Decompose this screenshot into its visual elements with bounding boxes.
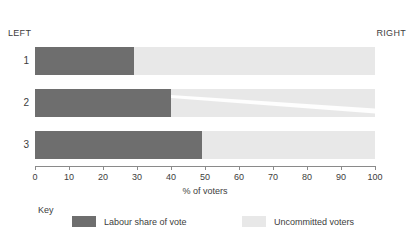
bar-row-label: 3	[23, 140, 29, 150]
x-axis-tick-label: 50	[200, 172, 210, 182]
bar-row: 1	[35, 47, 375, 75]
legend-title: Key	[38, 205, 54, 215]
bar-row: 3	[35, 131, 375, 159]
x-axis-tick	[137, 166, 138, 170]
highlight-wedge	[171, 89, 375, 117]
x-axis-tick	[35, 166, 36, 170]
plot-area: 1 2 3	[35, 45, 375, 165]
x-axis-tick	[273, 166, 274, 170]
legend-label-labour: Labour share of vote	[104, 217, 187, 227]
legend-label-uncommitted: Uncommitted voters	[274, 217, 354, 227]
bar-track-uncommitted	[35, 131, 375, 159]
x-axis-tick	[375, 166, 376, 170]
bar-track-uncommitted	[35, 89, 375, 117]
bar-fill-labour	[35, 131, 202, 159]
bar-chart: LEFT RIGHT 1 2 3	[0, 0, 414, 242]
legend-item-labour: Labour share of vote	[72, 216, 187, 227]
legend: Key Labour share of vote Uncommitted vot…	[0, 205, 414, 235]
bar-row-label: 2	[23, 98, 29, 108]
legend-swatch-uncommitted	[242, 216, 266, 227]
x-axis-tick	[69, 166, 70, 170]
x-axis-tick-label: 100	[367, 172, 382, 182]
left-direction-label: LEFT	[8, 28, 31, 38]
x-axis-tick-label: 0	[32, 172, 37, 182]
legend-swatch-labour	[72, 216, 96, 227]
x-axis-tick-label: 90	[336, 172, 346, 182]
x-axis-tick	[239, 166, 240, 170]
bar-track-uncommitted	[35, 47, 375, 75]
x-axis-tick-label: 40	[166, 172, 176, 182]
right-direction-label: RIGHT	[377, 28, 407, 38]
x-axis-tick-label: 20	[98, 172, 108, 182]
x-axis-tick	[205, 166, 206, 170]
bar-row-label: 1	[23, 56, 29, 66]
x-axis-tick-label: 70	[268, 172, 278, 182]
bar-fill-labour	[35, 89, 171, 117]
x-axis-tick-label: 60	[234, 172, 244, 182]
x-axis-title: % of voters	[35, 186, 375, 196]
bar-fill-labour	[35, 47, 134, 75]
x-axis-tick	[341, 166, 342, 170]
bar-row: 2	[35, 89, 375, 117]
x-axis-tick-label: 30	[132, 172, 142, 182]
x-axis-tick-label: 80	[302, 172, 312, 182]
x-axis-tick	[171, 166, 172, 170]
x-axis-tick-label: 10	[64, 172, 74, 182]
x-axis-tick	[307, 166, 308, 170]
x-axis-tick	[103, 166, 104, 170]
legend-item-uncommitted: Uncommitted voters	[242, 216, 354, 227]
